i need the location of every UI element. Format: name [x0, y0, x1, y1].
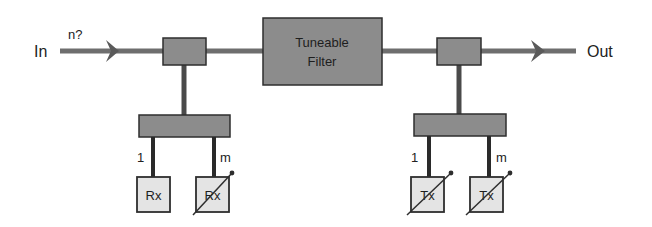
drop-port-1-index: 1 — [137, 150, 144, 165]
tunable-indicator-dot-icon — [230, 171, 235, 176]
add-coupler — [437, 38, 481, 65]
input-label: In — [34, 43, 47, 60]
tunable-indicator-dot-icon — [508, 171, 513, 176]
drop-coupler — [163, 38, 206, 65]
tunable-indicator-dot-icon — [449, 171, 454, 176]
drop-splitter — [139, 115, 230, 137]
add-port-m-index: m — [496, 150, 507, 165]
input-channels-label: n? — [68, 27, 82, 42]
rx-port-1-label: Rx — [146, 188, 162, 203]
oadm-diagram: In n? Out Tuneable Filter 1 m Rx Rx 1 m … — [0, 0, 652, 227]
tuneable-filter-box — [263, 18, 382, 85]
add-port-1-index: 1 — [411, 150, 418, 165]
filter-label-line2: Filter — [308, 54, 338, 69]
add-splitter — [414, 114, 506, 136]
output-label: Out — [587, 43, 613, 60]
filter-label-line1: Tuneable — [295, 35, 349, 50]
drop-port-m-index: m — [220, 150, 231, 165]
